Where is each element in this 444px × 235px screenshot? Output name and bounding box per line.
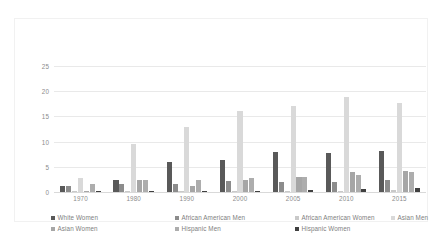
x-axis-line: [54, 192, 426, 193]
bar: [125, 191, 130, 192]
legend-item-label: African American Men: [182, 214, 246, 221]
bar: [273, 152, 278, 192]
bar: [167, 162, 172, 192]
x-axis-tick-label: 2000: [233, 195, 248, 202]
bar: [243, 180, 248, 192]
legend-swatch-icon: [51, 216, 55, 220]
bar: [173, 184, 178, 192]
bar: [72, 191, 77, 192]
legend-row: Asian WomenHispanic MenHispanic Women: [51, 223, 411, 234]
legend-swatch-icon: [51, 227, 55, 231]
legend-item[interactable]: Asian Men: [391, 214, 428, 221]
x-axis-tick-label: 2010: [339, 195, 354, 202]
bar: [84, 191, 89, 192]
bar: [249, 178, 254, 192]
bar-group: [320, 46, 373, 192]
x-axis-tick-label: 2005: [286, 195, 301, 202]
legend-item[interactable]: White Women: [51, 214, 98, 221]
bar: [302, 177, 307, 192]
legend-swatch-icon: [391, 216, 395, 220]
legend-item-label: Asian Men: [398, 214, 429, 221]
plot-area: 0510152025: [54, 46, 426, 192]
bar: [379, 151, 384, 192]
y-axis-tick-label: 15: [42, 113, 49, 120]
bar: [338, 191, 343, 193]
bar: [178, 191, 183, 192]
bar: [78, 178, 83, 192]
legend-swatch-icon: [295, 216, 299, 220]
y-axis-tick-label: 10: [42, 138, 49, 145]
bar: [391, 190, 396, 192]
bar: [190, 186, 195, 192]
bar: [90, 184, 95, 192]
bar: [60, 186, 65, 192]
legend-swatch-icon: [295, 227, 299, 231]
bar: [279, 182, 284, 192]
bar: [403, 171, 408, 192]
bar: [409, 172, 414, 192]
legend-item[interactable]: Hispanic Women: [295, 225, 350, 232]
bar-group: [213, 46, 266, 192]
bar: [196, 180, 201, 192]
y-axis-tick-label: 5: [45, 163, 49, 170]
bar: [332, 182, 337, 192]
bar: [350, 172, 355, 192]
bar: [237, 111, 242, 192]
bar: [184, 127, 189, 192]
chart-legend: White WomenAfrican American MenAfrican A…: [51, 212, 411, 234]
legend-item[interactable]: African American Women: [295, 214, 375, 221]
bar: [356, 175, 361, 192]
legend-item-label: White Women: [58, 214, 99, 221]
bar: [119, 184, 124, 192]
bar: [96, 191, 101, 192]
x-axis-tick-label: 1970: [73, 195, 88, 202]
legend-row: White WomenAfrican American MenAfrican A…: [51, 212, 411, 223]
bar: [296, 177, 301, 192]
y-axis-tick-label: 20: [42, 88, 49, 95]
bar-group: [54, 46, 107, 192]
bar-group: [107, 46, 160, 192]
bar: [415, 188, 420, 192]
bar: [220, 160, 225, 192]
bar: [131, 144, 136, 192]
bar: [285, 191, 290, 193]
x-axis-tick-labels: 1970198019902000200520102015: [54, 195, 426, 207]
bar: [361, 189, 366, 192]
legend-item-label: Hispanic Men: [182, 225, 221, 232]
bar: [202, 191, 207, 192]
bar: [113, 180, 118, 192]
legend-item-label: African American Women: [302, 214, 375, 221]
legend-item-label: Asian Women: [58, 225, 98, 232]
bar: [232, 191, 237, 193]
bar-group: [267, 46, 320, 192]
bar: [397, 103, 402, 192]
bar: [137, 180, 142, 192]
bar-group: [160, 46, 213, 192]
x-axis-tick-label: 1980: [126, 195, 141, 202]
bar: [226, 181, 231, 192]
bar: [143, 180, 148, 192]
y-axis-tick-label: 0: [45, 189, 49, 196]
x-axis-tick-label: 1990: [180, 195, 195, 202]
bar: [344, 97, 349, 192]
bar: [149, 191, 154, 192]
bar: [66, 186, 71, 192]
bar: [255, 191, 260, 193]
bars-layer: [54, 46, 426, 192]
y-axis-tick-label: 25: [42, 63, 49, 70]
legend-swatch-icon: [175, 216, 179, 220]
bar: [326, 153, 331, 192]
bar-group: [373, 46, 426, 192]
bar: [385, 180, 390, 192]
bar: [291, 106, 296, 192]
legend-swatch-icon: [175, 227, 179, 231]
legend-item[interactable]: Hispanic Men: [175, 225, 221, 232]
chart-frame: 0510152025 1970198019902000200520102015 …: [14, 18, 428, 222]
bar: [308, 190, 313, 192]
legend-item[interactable]: African American Men: [175, 214, 245, 221]
bar-chart: 0510152025 1970198019902000200520102015 …: [0, 0, 444, 235]
legend-item-label: Hispanic Women: [302, 225, 351, 232]
legend-item[interactable]: Asian Women: [51, 225, 98, 232]
x-axis-tick-label: 2015: [392, 195, 407, 202]
